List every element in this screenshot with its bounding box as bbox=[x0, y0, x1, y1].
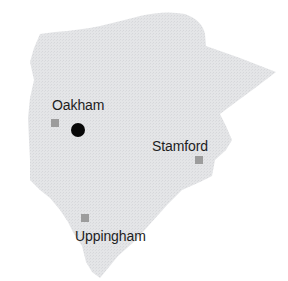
town-label-stamford: Stamford bbox=[152, 139, 208, 153]
town-marker-oakham-icon bbox=[51, 119, 59, 127]
town-marker-uppingham-icon bbox=[81, 214, 89, 222]
town-label-oakham: Oakham bbox=[52, 98, 104, 112]
town-marker-stamford-icon bbox=[195, 156, 203, 164]
county-town-dot-icon bbox=[71, 123, 85, 137]
town-label-uppingham: Uppingham bbox=[75, 229, 146, 243]
map: Oakham Stamford Uppingham bbox=[0, 0, 288, 281]
